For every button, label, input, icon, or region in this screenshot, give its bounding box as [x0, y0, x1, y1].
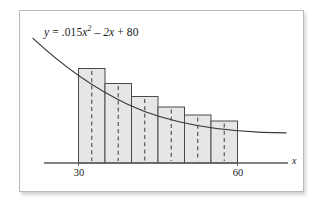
figure-root: y = .015x2 – 2x + 80 30 60 x — [0, 0, 326, 213]
x-tick-label-30: 30 — [68, 167, 90, 178]
equation-equals: = — [52, 26, 59, 38]
curve-equation-label: y = .015x2 – 2x + 80 — [44, 26, 139, 38]
equation-linear-term: 2x — [103, 26, 114, 38]
equation-coefficient: .015 — [62, 26, 83, 38]
x-tick-label-60: 60 — [227, 167, 249, 178]
equation-plus: + — [117, 26, 124, 38]
equation-exponent: 2 — [88, 24, 92, 33]
equation-minus: – — [94, 26, 100, 38]
equation-lhs: y — [44, 26, 49, 38]
equation-constant: 80 — [127, 26, 139, 38]
x-axis-label: x — [292, 155, 296, 166]
